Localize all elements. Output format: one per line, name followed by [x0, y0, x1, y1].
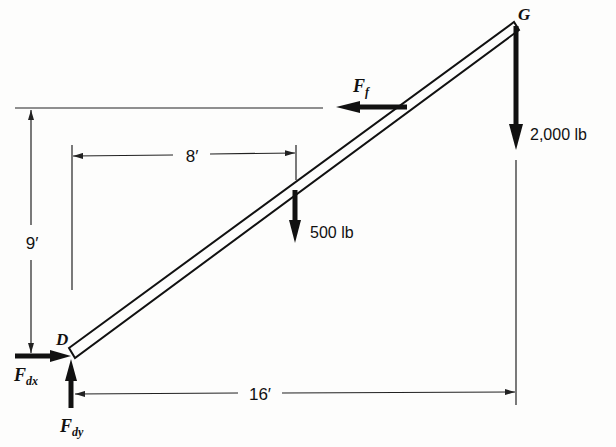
friction-force-subscript: f: [365, 85, 370, 99]
mid-load-arrow: 500 lb: [289, 190, 354, 243]
svg-text:Fdy: Fdy: [59, 416, 84, 439]
svg-text:Fdx: Fdx: [13, 365, 38, 388]
mid-load-label: 500 lb: [310, 224, 354, 241]
top-load-label: 2,000 lb: [530, 126, 587, 143]
beam-free-body-diagram: 9′ 8′ 16′ 2,000 lb G Ff 500 lb D: [0, 0, 616, 447]
reaction-y-arrow: Fdy: [59, 359, 84, 439]
friction-force-arrow: Ff: [336, 76, 407, 113]
span-dimension-label: 16′: [249, 385, 271, 404]
point-d-label: D: [55, 330, 68, 349]
reaction-y-label: F: [59, 416, 72, 436]
reaction-x-arrow: Fdx: [13, 350, 71, 388]
svg-text:Ff: Ff: [352, 76, 370, 99]
height-dimension-label: 9′: [26, 234, 39, 253]
reaction-x-label: F: [13, 365, 26, 385]
height-dimension: 9′: [26, 110, 39, 353]
reaction-x-subscript: dx: [26, 374, 38, 388]
half-span-dimension-label: 8′: [186, 147, 199, 166]
point-g-label: G: [518, 5, 531, 24]
reaction-y-subscript: dy: [72, 425, 84, 439]
friction-force-label: F: [352, 76, 365, 96]
top-load-arrow: 2,000 lb: [509, 26, 587, 150]
